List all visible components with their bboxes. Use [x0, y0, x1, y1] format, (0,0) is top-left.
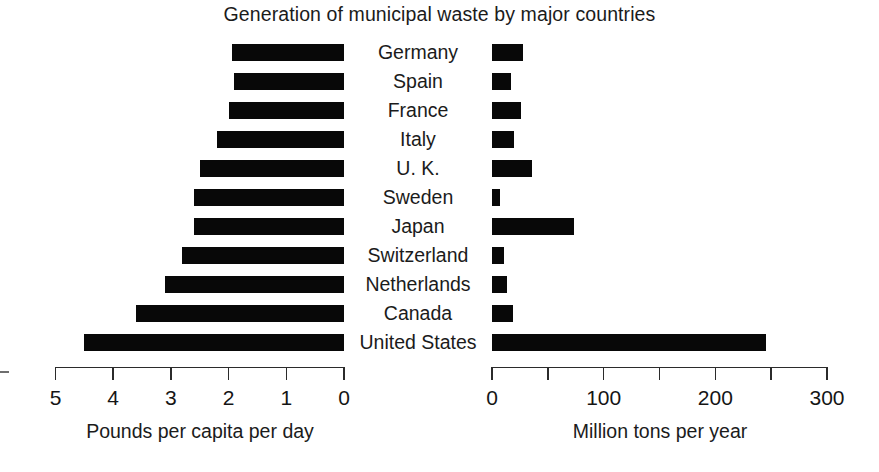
bar-pounds-per-capita [200, 160, 344, 177]
right-axis-tick-label: 300 [809, 386, 844, 410]
left-axis-tick [55, 367, 57, 380]
bar-million-tons [492, 73, 511, 90]
bar-row: Sweden [0, 189, 879, 218]
left-axis-tick-label: 5 [50, 386, 62, 410]
bar-row-label: Italy [349, 129, 487, 150]
bar-row-label: Switzerland [349, 245, 487, 266]
bar-pounds-per-capita [217, 131, 344, 148]
left-axis-tick [286, 367, 288, 380]
left-axis-tick-label: 2 [223, 386, 235, 410]
bar-row: Netherlands [0, 276, 879, 305]
bar-row: Italy [0, 131, 879, 160]
bar-row: Japan [0, 218, 879, 247]
bar-row: France [0, 102, 879, 131]
right-axis-tick-label: 100 [586, 386, 621, 410]
bar-million-tons [492, 131, 514, 148]
bar-row: Switzerland [0, 247, 879, 276]
bar-pounds-per-capita [165, 276, 344, 293]
bar-pounds-per-capita [84, 334, 344, 351]
bar-row: Germany [0, 44, 879, 73]
left-axis-tick [170, 367, 172, 380]
bar-pounds-per-capita [232, 44, 345, 61]
bar-million-tons [492, 189, 500, 206]
bar-pounds-per-capita [136, 305, 344, 322]
bar-row-label: United States [349, 332, 487, 353]
bar-row: United States [0, 334, 879, 363]
bar-pounds-per-capita [234, 73, 344, 90]
left-axis-tick [112, 367, 114, 380]
bar-million-tons [492, 247, 504, 264]
bar-rows-container: GermanySpainFranceItalyU. K.SwedenJapanS… [0, 44, 879, 356]
bar-million-tons [492, 276, 507, 293]
bar-row: Spain [0, 73, 879, 102]
right-axis-tick [826, 367, 828, 380]
right-axis-minor-tick [547, 367, 549, 380]
right-axis-minor-tick [770, 367, 772, 380]
bar-million-tons [492, 102, 521, 119]
left-axis-tick [228, 367, 230, 380]
bar-row: U. K. [0, 160, 879, 189]
bar-row: Canada [0, 305, 879, 334]
right-axis-tick [715, 367, 717, 380]
bar-million-tons [492, 44, 523, 61]
left-axis-tick-label: 1 [280, 386, 292, 410]
right-axis-tick [491, 367, 493, 380]
page-margin-mark [0, 371, 9, 373]
chart-figure: Generation of municipal waste by major c… [0, 0, 879, 472]
bar-row-label: Spain [349, 71, 487, 92]
bar-row-label: France [349, 100, 487, 121]
left-axis-tick-label: 0 [338, 386, 350, 410]
left-axis-tick-label: 3 [165, 386, 177, 410]
right-axis-minor-tick [659, 367, 661, 380]
right-axis-caption: Million tons per year [573, 419, 748, 443]
left-axis-line [56, 367, 345, 368]
bar-million-tons [492, 334, 766, 351]
bar-row-label: Japan [349, 216, 487, 237]
right-axis-tick [603, 367, 605, 380]
right-axis-tick-label: 200 [698, 386, 733, 410]
bar-row-label: Netherlands [349, 274, 487, 295]
bar-million-tons [492, 160, 532, 177]
left-axis-tick-label: 4 [107, 386, 119, 410]
chart-title: Generation of municipal waste by major c… [0, 3, 879, 26]
bar-pounds-per-capita [229, 102, 344, 119]
bar-row-label: Germany [349, 42, 487, 63]
bar-pounds-per-capita [194, 189, 344, 206]
bar-row-label: U. K. [349, 158, 487, 179]
bar-million-tons [492, 305, 513, 322]
left-axis-caption: Pounds per capita per day [86, 419, 314, 443]
bar-million-tons [492, 218, 574, 235]
left-axis-tick [343, 367, 345, 380]
right-axis-tick-label: 0 [486, 386, 498, 410]
bar-row-label: Sweden [349, 187, 487, 208]
bar-pounds-per-capita [182, 247, 344, 264]
bar-pounds-per-capita [194, 218, 344, 235]
bar-row-label: Canada [349, 303, 487, 324]
